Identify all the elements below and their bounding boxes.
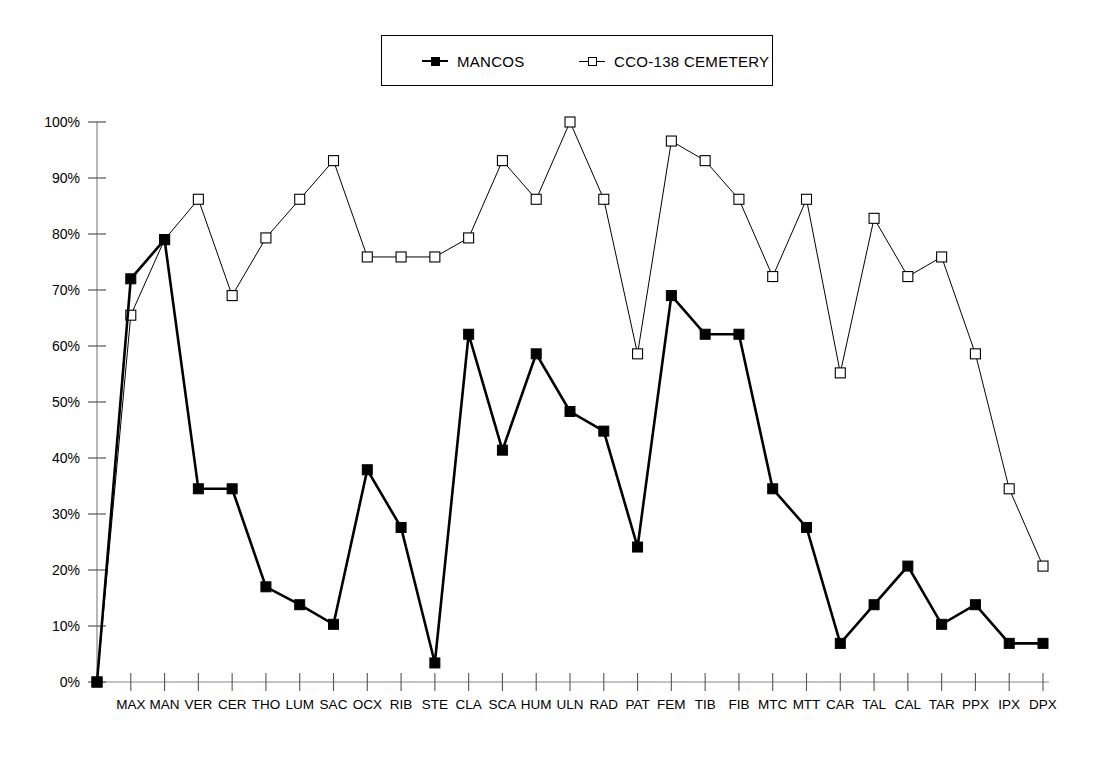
data-point-marker — [633, 542, 643, 552]
data-point-marker — [835, 638, 845, 648]
data-point-marker — [802, 194, 812, 204]
data-point-marker — [193, 484, 203, 494]
data-point-marker — [362, 252, 372, 262]
data-point-marker — [903, 561, 913, 571]
data-point-marker — [734, 329, 744, 339]
data-point-marker — [531, 194, 541, 204]
data-point-marker — [329, 619, 339, 629]
data-point-marker — [1038, 561, 1048, 571]
data-point-marker — [1038, 638, 1048, 648]
data-point-marker — [565, 117, 575, 127]
data-point-marker — [869, 600, 879, 610]
data-point-marker — [396, 522, 406, 532]
data-point-marker — [1004, 484, 1014, 494]
data-point-marker — [497, 156, 507, 166]
data-point-marker — [666, 291, 676, 301]
data-point-marker — [768, 272, 778, 282]
data-point-marker — [261, 233, 271, 243]
data-point-marker — [464, 233, 474, 243]
data-point-marker — [295, 194, 305, 204]
series-line-mancos — [97, 240, 1043, 682]
data-point-marker — [1004, 638, 1014, 648]
chart-container: MANCOS CCO-138 CEMETERY 0%10%20%30%40%50… — [0, 0, 1102, 757]
data-point-marker — [430, 252, 440, 262]
data-point-marker — [869, 213, 879, 223]
data-point-marker — [903, 272, 913, 282]
data-point-marker — [565, 407, 575, 417]
data-point-marker — [92, 677, 102, 687]
data-point-marker — [160, 235, 170, 245]
data-point-marker — [329, 156, 339, 166]
data-point-marker — [430, 658, 440, 668]
data-point-marker — [497, 445, 507, 455]
data-point-marker — [227, 291, 237, 301]
data-point-marker — [700, 156, 710, 166]
data-point-marker — [126, 274, 136, 284]
data-point-marker — [734, 194, 744, 204]
data-point-marker — [970, 600, 980, 610]
data-point-marker — [970, 349, 980, 359]
data-point-marker — [802, 522, 812, 532]
data-point-marker — [295, 600, 305, 610]
series-line-cemetery — [97, 122, 1043, 682]
data-point-marker — [937, 252, 947, 262]
plot-area — [0, 0, 1102, 757]
data-point-marker — [599, 194, 609, 204]
data-point-marker — [531, 349, 541, 359]
data-point-marker — [768, 484, 778, 494]
data-point-marker — [396, 252, 406, 262]
series-lines — [92, 117, 1048, 687]
data-point-marker — [937, 619, 947, 629]
data-point-marker — [227, 484, 237, 494]
data-point-marker — [193, 194, 203, 204]
data-point-marker — [666, 136, 676, 146]
data-point-marker — [464, 329, 474, 339]
data-point-marker — [700, 329, 710, 339]
data-point-marker — [261, 582, 271, 592]
data-point-marker — [362, 465, 372, 475]
data-point-marker — [599, 426, 609, 436]
data-point-marker — [633, 349, 643, 359]
data-point-marker — [835, 368, 845, 378]
